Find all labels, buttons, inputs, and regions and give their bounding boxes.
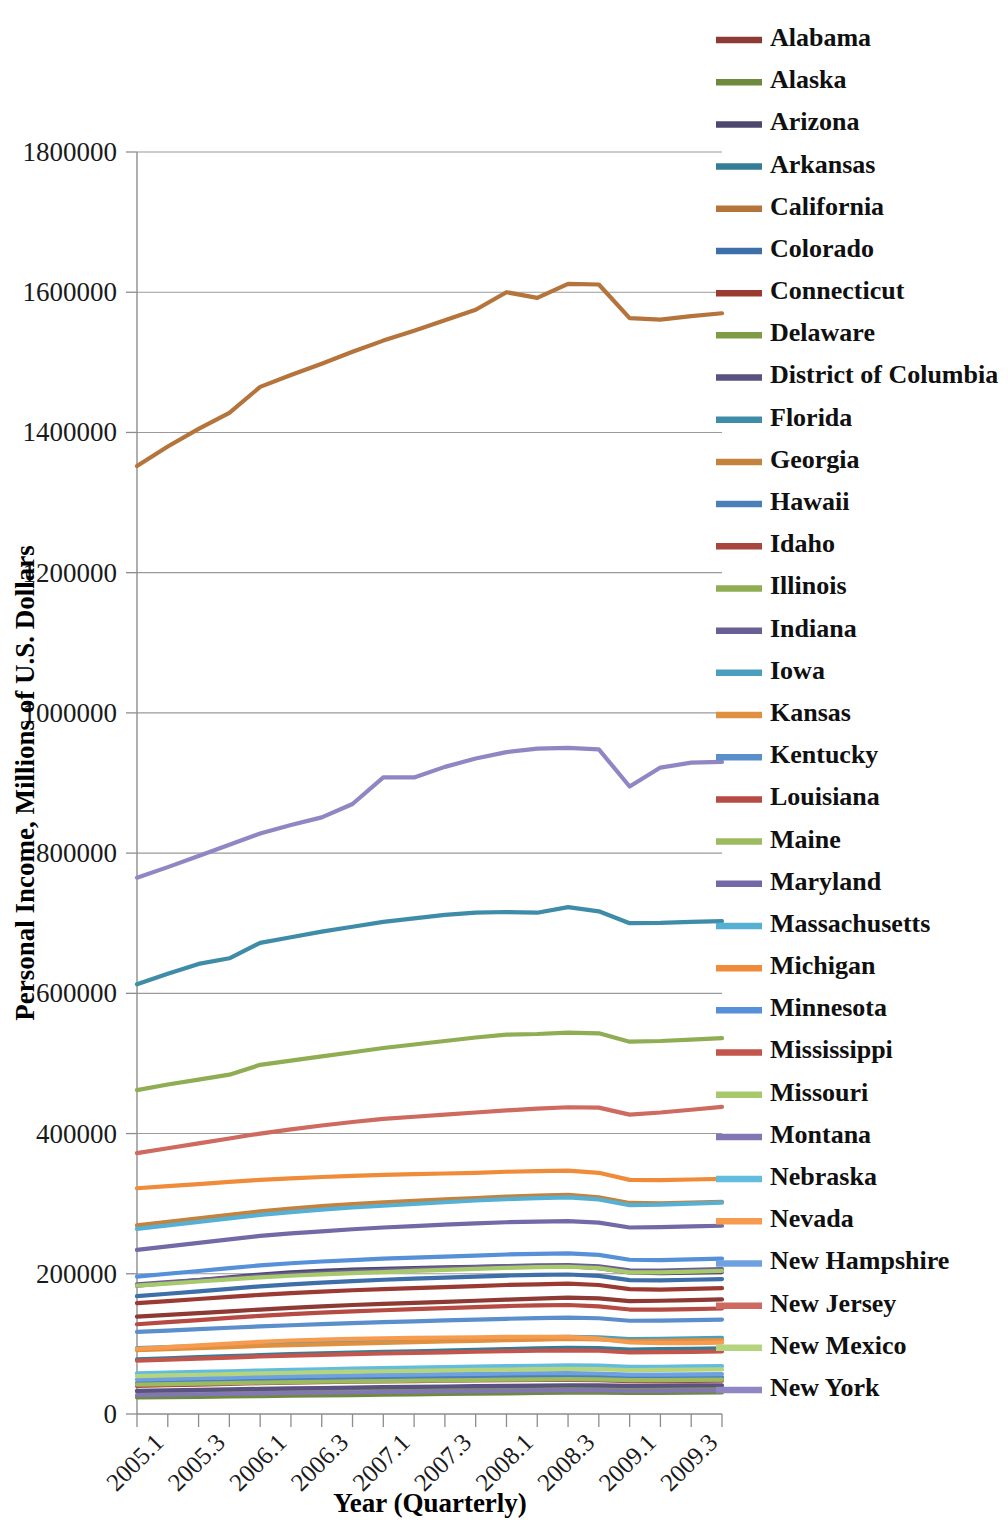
legend-label-alabama[interactable]: Alabama: [770, 23, 871, 52]
x-tick-label: 2006.3: [286, 1428, 354, 1496]
series-line-new-york: [137, 748, 722, 878]
y-tick-label: 0: [104, 1399, 118, 1429]
y-tick-label: 1800000: [23, 137, 118, 167]
y-tick-label: 1600000: [23, 277, 118, 307]
x-tick-label: 2009.3: [655, 1428, 723, 1496]
x-axis-ticks: 2005.12005.32006.12006.32007.12007.32008…: [101, 1414, 723, 1496]
legend-label-mississippi[interactable]: Mississippi: [770, 1035, 893, 1064]
legend-label-arizona[interactable]: Arizona: [770, 107, 860, 136]
x-tick-label: 2008.1: [470, 1428, 538, 1496]
legend-label-connecticut[interactable]: Connecticut: [770, 276, 905, 305]
legend-label-arkansas[interactable]: Arkansas: [770, 150, 875, 179]
legend-label-maine[interactable]: Maine: [770, 825, 841, 854]
legend-label-iowa[interactable]: Iowa: [770, 656, 825, 685]
legend-label-louisiana[interactable]: Louisiana: [770, 782, 880, 811]
legend-label-new-york[interactable]: New York: [770, 1373, 880, 1402]
series-lines: [137, 284, 722, 1398]
legend-label-minnesota[interactable]: Minnesota: [770, 993, 887, 1022]
series-line-illinois: [137, 1033, 722, 1090]
x-tick-label: 2007.1: [347, 1428, 415, 1496]
y-tick-label: 200000: [36, 1259, 117, 1289]
series-line-california: [137, 284, 722, 466]
series-line-new-jersey: [137, 1107, 722, 1153]
legend-label-illinois[interactable]: Illinois: [770, 571, 847, 600]
legend-label-maryland[interactable]: Maryland: [770, 867, 882, 896]
line-chart: 0200000400000600000800000100000012000001…: [0, 0, 1008, 1528]
legend-label-new-mexico[interactable]: New Mexico: [770, 1331, 906, 1360]
legend-label-kansas[interactable]: Kansas: [770, 698, 851, 727]
legend-label-hawaii[interactable]: Hawaii: [770, 487, 849, 516]
legend-label-alaska[interactable]: Alaska: [770, 65, 847, 94]
y-tick-label: 1400000: [23, 417, 118, 447]
x-tick-label: 2009.1: [593, 1428, 661, 1496]
y-axis-title: Personal Income, Millions of U.S. Dollar…: [10, 545, 40, 1020]
legend-label-delaware[interactable]: Delaware: [770, 318, 875, 347]
x-tick-label: 2008.3: [532, 1428, 600, 1496]
chart-legend: AlabamaAlaskaArizonaArkansasCaliforniaCo…: [716, 23, 998, 1402]
legend-label-missouri[interactable]: Missouri: [770, 1078, 868, 1107]
legend-label-nebraska[interactable]: Nebraska: [770, 1162, 877, 1191]
legend-label-massachusetts[interactable]: Massachusetts: [770, 909, 930, 938]
x-tick-label: 2005.3: [162, 1428, 230, 1496]
x-tick-label: 2006.1: [224, 1428, 292, 1496]
legend-label-nevada[interactable]: Nevada: [770, 1204, 854, 1233]
x-tick-label: 2005.1: [101, 1428, 169, 1496]
legend-label-new-jersey[interactable]: New Jersey: [770, 1289, 896, 1318]
series-line-michigan: [137, 1171, 722, 1189]
legend-label-new-hampshire[interactable]: New Hampshire: [770, 1246, 949, 1275]
x-tick-label: 2007.3: [409, 1428, 477, 1496]
y-tick-label: 800000: [36, 838, 117, 868]
y-tick-label: 600000: [36, 978, 117, 1008]
legend-label-kentucky[interactable]: Kentucky: [770, 740, 878, 769]
legend-label-indiana[interactable]: Indiana: [770, 614, 857, 643]
legend-label-georgia[interactable]: Georgia: [770, 445, 860, 474]
series-line-maryland: [137, 1221, 722, 1250]
legend-label-california[interactable]: California: [770, 192, 884, 221]
legend-label-idaho[interactable]: Idaho: [770, 529, 835, 558]
legend-label-florida[interactable]: Florida: [770, 403, 852, 432]
legend-label-colorado[interactable]: Colorado: [770, 234, 874, 263]
legend-label-montana[interactable]: Montana: [770, 1120, 871, 1149]
chart-container: 0200000400000600000800000100000012000001…: [0, 0, 1008, 1528]
y-tick-label: 400000: [36, 1119, 117, 1149]
series-line-florida: [137, 907, 722, 984]
legend-label-michigan[interactable]: Michigan: [770, 951, 876, 980]
legend-label-district-of-columbia[interactable]: District of Columbia: [770, 360, 998, 389]
x-axis-title: Year (Quarterly): [333, 1488, 527, 1518]
